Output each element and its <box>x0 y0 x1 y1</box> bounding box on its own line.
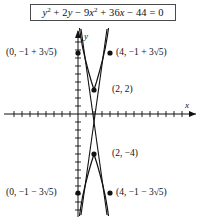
label-upper-right: (4, −1 + 3√5) <box>116 48 167 58</box>
x-axis-label: x <box>185 101 189 110</box>
label-upper-left: (0, −1 + 3√5) <box>6 48 57 58</box>
point-marker-upper-right <box>107 50 112 55</box>
point-marker-upper-vertex <box>91 87 96 92</box>
y-axis <box>75 30 81 217</box>
y-axis-label: y <box>84 32 88 41</box>
point-marker-lower-vertex <box>91 151 96 156</box>
point-marker-lower-left <box>75 190 80 195</box>
label-upper-vertex: (2, 2) <box>112 85 133 95</box>
label-lower-right: (4, −1 − 3√5) <box>116 188 167 198</box>
point-marker-upper-left <box>75 50 80 55</box>
hyperbola-lower-branch <box>80 154 109 216</box>
x-axis <box>4 111 196 117</box>
hyperbola-figure: y2 + 2y − 9x2 + 36x − 44 = 0 <box>0 0 208 221</box>
point-marker-lower-right <box>107 190 112 195</box>
label-lower-vertex: (2, −4) <box>112 149 138 159</box>
label-lower-left: (0, −1 − 3√5) <box>6 188 57 198</box>
